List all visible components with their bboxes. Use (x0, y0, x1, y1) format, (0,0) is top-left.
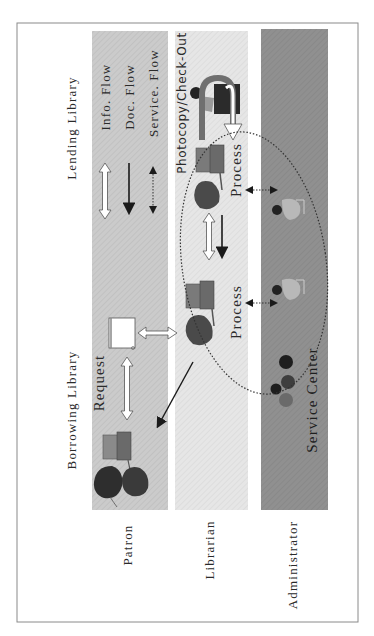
lane-label-librarian: Librarian (202, 520, 217, 579)
lending-library-header: Lending Library (64, 76, 79, 180)
request-label: Request (91, 355, 107, 412)
lane-label-patron: Patron (120, 524, 135, 565)
legend-doc-flow-label: Doc. Flow (122, 64, 137, 130)
request-document-icon (109, 318, 135, 350)
legend-service-flow-label: Service. Flow (146, 49, 161, 137)
library-workflow-diagram: Lending Library Borrowing Library Patron… (0, 0, 374, 636)
process-upper-label: Process (228, 143, 244, 197)
legend-info-flow-label: Info. Flow (98, 64, 113, 131)
lane-label-administrator: Administrator (285, 521, 300, 610)
borrowing-library-header: Borrowing Library (64, 351, 79, 470)
photocopy-checkout-label: Photocopy/Check-Out (175, 32, 189, 174)
service-center-label: Service Center (304, 347, 320, 453)
process-lower-label: Process (228, 285, 244, 339)
